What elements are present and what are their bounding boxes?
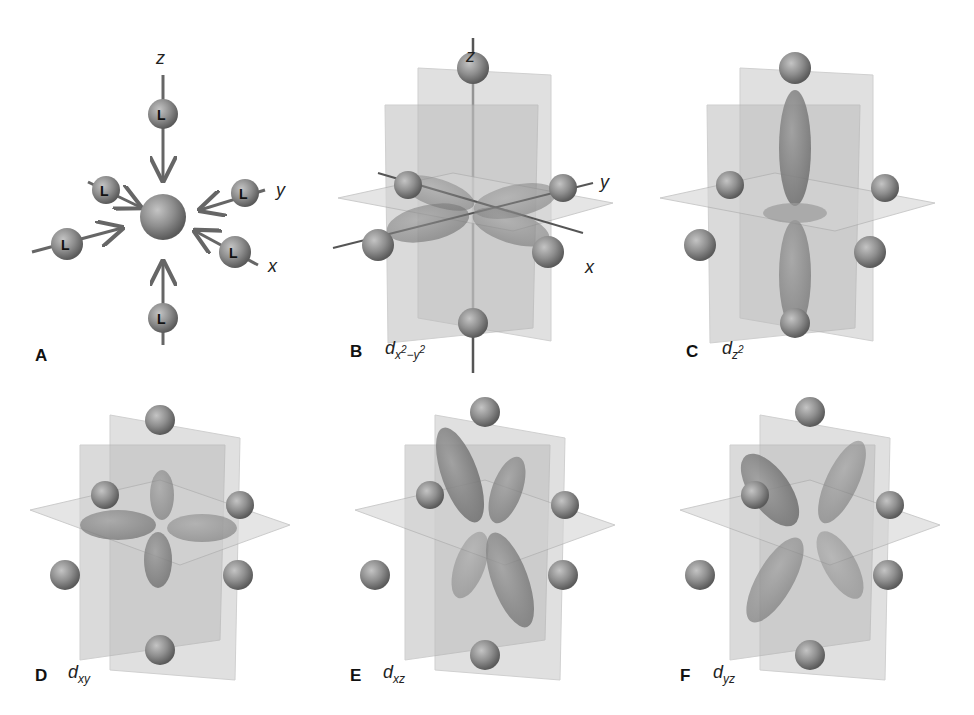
axis-label-z-b: z	[466, 46, 475, 67]
axis-label-y-a: y	[276, 180, 285, 201]
svg-text:L: L	[157, 311, 166, 327]
orbital-label-b: dx2−y2	[385, 338, 425, 362]
svg-text:L: L	[157, 107, 166, 123]
axis-label-x-b: x	[585, 257, 594, 278]
panel-letter-e: E	[350, 666, 361, 686]
svg-text:L: L	[239, 186, 248, 202]
metal-ion	[140, 194, 186, 240]
orbital-label-d: dxy	[68, 662, 90, 686]
panel-b-dx2y2	[333, 38, 613, 373]
axis-label-y-b: y	[600, 172, 609, 193]
orbital-label-e: dxz	[383, 662, 405, 686]
orbital-label-c: dz2	[722, 338, 744, 362]
axis-label-x-a: x	[268, 256, 277, 277]
orbital-label-f: dyz	[713, 662, 735, 686]
panel-e-dxz	[355, 397, 615, 680]
panel-c-dz2	[660, 52, 935, 343]
panel-d-dxy	[30, 405, 290, 680]
svg-text:L: L	[100, 183, 109, 199]
d-orbital-figure: L L L L L L	[0, 0, 974, 715]
panel-f-dyz	[680, 397, 940, 680]
panel-letter-f: F	[680, 666, 690, 686]
svg-text:L: L	[61, 237, 70, 253]
panel-letter-b: B	[350, 342, 362, 362]
axis-label-z-a: z	[156, 48, 165, 69]
panel-letter-c: C	[686, 342, 698, 362]
panel-letter-a: A	[35, 346, 47, 366]
svg-text:L: L	[229, 245, 238, 261]
panel-letter-d: D	[35, 666, 47, 686]
panel-a-ligand-approach: L L L L L L	[32, 75, 265, 345]
